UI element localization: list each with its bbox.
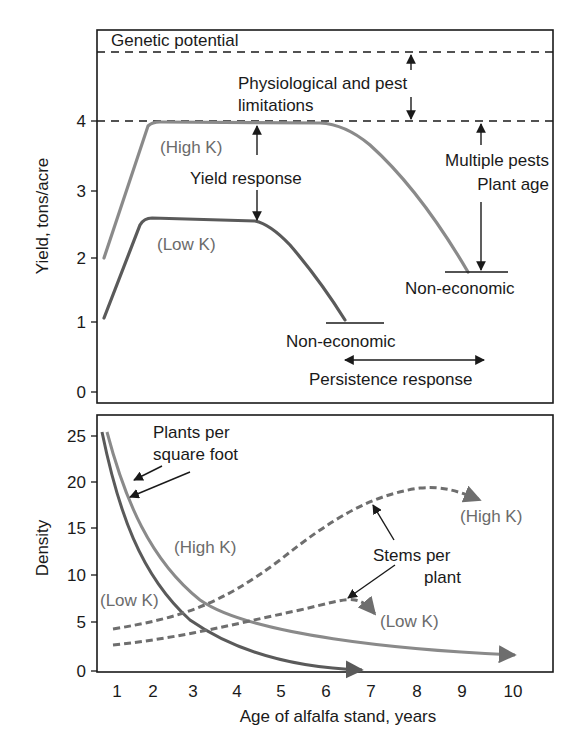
density-y-tick-0: 0 [77,662,86,681]
x-tick-4: 4 [232,682,241,701]
stems-pointer-high-k [373,505,394,540]
non-economic-left-label: Non-economic [286,332,396,351]
x-tick-8: 8 [412,682,421,701]
persistence-response-label: Persistence response [309,370,472,389]
x-tick-2: 2 [148,682,157,701]
y-tick-2: 2 [77,249,86,268]
multiple-pests-label: Multiple pests [445,151,549,170]
yield-response-label: Yield response [190,169,302,188]
yield-y-axis-title: Yield, tons/acre [33,158,52,275]
density-chart: 25 20 15 10 5 0 Density 1 2 3 4 5 6 7 8 … [33,415,553,726]
density-y-tick-10: 10 [67,566,86,585]
plants-low-k-label: (Low K) [100,591,159,610]
stems-high-k-label: (High K) [460,507,522,526]
y-tick-4: 4 [77,112,86,131]
x-axis-title: Age of alfalfa stand, years [240,707,437,726]
density-y-axis: 25 20 15 10 5 0 Density [33,427,97,681]
y-tick-3: 3 [77,182,86,201]
density-x-axis: 1 2 3 4 5 6 7 8 9 10 Age of alfalfa stan… [112,682,522,726]
plants-pointer-high-k [134,466,162,480]
density-y-tick-20: 20 [67,473,86,492]
x-tick-5: 5 [276,682,285,701]
density-y-tick-5: 5 [77,613,86,632]
x-tick-10: 10 [504,682,523,701]
plants-high-k-label: (High K) [174,538,236,557]
y-tick-0: 0 [77,383,86,402]
density-y-tick-25: 25 [67,427,86,446]
x-tick-9: 9 [457,682,466,701]
plants-pointer-low-k [130,472,190,497]
physio-label-line1: Physiological and pest [238,74,407,93]
x-tick-3: 3 [188,682,197,701]
yield-chart: 4 3 2 1 0 Yield, tons/acre Genetic poten… [33,30,553,403]
yield-high-k-label: (High K) [160,138,222,157]
stems-per-label-line1: Stems per [373,546,451,565]
non-economic-right-label: Non-economic [405,279,515,298]
y-tick-1: 1 [77,313,86,332]
genetic-potential-label: Genetic potential [111,31,239,50]
physio-label-line2: limitations [238,96,314,115]
x-tick-1: 1 [112,682,121,701]
alfalfa-chart: 4 3 2 1 0 Yield, tons/acre Genetic poten… [0,0,580,749]
density-y-axis-title: Density [33,519,52,576]
yield-y-axis: 4 3 2 1 0 Yield, tons/acre [33,112,97,402]
x-tick-7: 7 [366,682,375,701]
plant-age-label: Plant age [477,175,549,194]
plants-per-label-line1: Plants per [153,423,230,442]
density-y-tick-15: 15 [67,519,86,538]
yield-low-k-label: (Low K) [157,235,216,254]
plants-per-label-line2: square foot [153,445,238,464]
plants-curve-high-k [107,432,515,655]
stems-pointer-low-k [348,565,395,598]
yield-curve-low-k [104,218,345,320]
stems-per-label-line2: plant [424,568,461,587]
x-tick-6: 6 [321,682,330,701]
stems-low-k-label: (Low K) [380,612,439,631]
